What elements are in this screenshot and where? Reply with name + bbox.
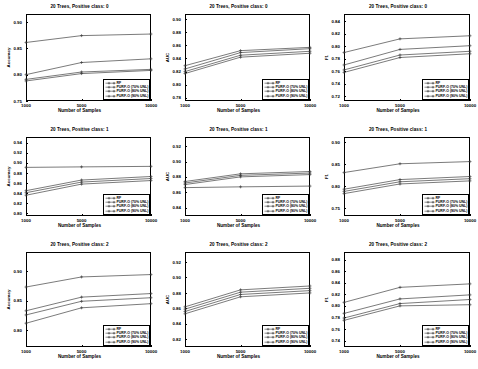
plot-panel: 20 Trees, Positive class: 1F10.750.800.8… bbox=[318, 123, 478, 238]
legend[interactable]: RFPURF-O (70% UNL)PURF-O (80% UNL)PURF-O… bbox=[422, 79, 469, 100]
series-marker bbox=[469, 179, 472, 182]
series-line bbox=[344, 54, 470, 73]
legend-line-marker-icon bbox=[105, 209, 116, 213]
series-marker bbox=[150, 273, 153, 276]
legend[interactable]: RFPURF-O (70% UNL)PURF-O (80% UNL)PURF-O… bbox=[422, 194, 469, 215]
series-marker bbox=[469, 298, 472, 301]
series-line bbox=[344, 179, 470, 192]
series-layer bbox=[159, 123, 318, 238]
series-line bbox=[26, 304, 151, 324]
series-marker bbox=[184, 67, 187, 70]
legend-item[interactable]: PURF-O (90% UNL) bbox=[264, 340, 306, 344]
series-marker bbox=[150, 33, 153, 36]
legend-label: PURF-O (90% UNL) bbox=[276, 94, 308, 98]
series-line bbox=[185, 186, 310, 188]
series-marker bbox=[184, 183, 187, 186]
series-marker bbox=[25, 73, 28, 76]
series-marker bbox=[469, 160, 472, 163]
series-marker bbox=[469, 44, 472, 47]
series-marker bbox=[309, 291, 312, 294]
series-marker bbox=[343, 51, 346, 54]
series-marker bbox=[25, 309, 28, 312]
legend-label: PURF-O (90% UNL) bbox=[117, 94, 149, 98]
series-marker bbox=[150, 57, 153, 60]
series-line bbox=[344, 46, 470, 65]
legend-line-marker-icon bbox=[264, 209, 275, 213]
plot-panel: 20 Trees, Positive class: 0F10.720.740.7… bbox=[318, 0, 478, 123]
series-marker bbox=[80, 275, 83, 278]
series-marker bbox=[469, 293, 472, 296]
series-line bbox=[344, 305, 470, 321]
series-marker bbox=[150, 292, 153, 295]
figure-grid: 20 Trees, Positive class: 0Accuracy0.750… bbox=[0, 0, 478, 369]
series-marker bbox=[399, 297, 402, 300]
series-marker bbox=[399, 56, 402, 59]
series-line bbox=[26, 275, 151, 287]
legend-item[interactable]: PURF-O (90% UNL) bbox=[105, 94, 147, 98]
legend-item[interactable]: PURF-O (90% UNL) bbox=[424, 340, 466, 344]
series-marker bbox=[399, 48, 402, 51]
legend-item[interactable]: PURF-O (90% UNL) bbox=[264, 209, 306, 213]
series-marker bbox=[343, 71, 346, 74]
series-marker bbox=[469, 52, 472, 55]
series-marker bbox=[239, 51, 242, 54]
legend[interactable]: RFPURF-O (70% UNL)PURF-O (80% UNL)PURF-O… bbox=[262, 325, 309, 346]
series-line bbox=[26, 294, 151, 311]
legend[interactable]: RFPURF-O (70% UNL)PURF-O (80% UNL)PURF-O… bbox=[262, 79, 309, 100]
series-marker bbox=[80, 165, 83, 168]
series-line bbox=[344, 284, 470, 303]
legend-item[interactable]: PURF-O (90% UNL) bbox=[105, 340, 147, 344]
series-marker bbox=[25, 194, 28, 197]
legend[interactable]: RFPURF-O (70% UNL)PURF-O (80% UNL)PURF-O… bbox=[103, 194, 150, 215]
series-marker bbox=[184, 186, 187, 189]
series-marker bbox=[399, 37, 402, 40]
series-line bbox=[26, 166, 151, 167]
legend-line-marker-icon bbox=[105, 94, 116, 98]
legend-item[interactable]: PURF-O (90% UNL) bbox=[424, 94, 466, 98]
series-marker bbox=[25, 313, 28, 316]
series-marker bbox=[399, 286, 402, 289]
legend-label: PURF-O (90% UNL) bbox=[276, 209, 308, 213]
series-marker bbox=[25, 79, 28, 82]
plot-panel: 20 Trees, Positive class: 1Accuracy0.800… bbox=[0, 123, 159, 238]
plot-panel: 20 Trees, Positive class: 0AUC0.780.800.… bbox=[159, 0, 318, 123]
series-marker bbox=[469, 303, 472, 306]
series-layer bbox=[0, 0, 159, 123]
legend-item[interactable]: PURF-O (90% UNL) bbox=[105, 209, 147, 213]
series-line bbox=[26, 179, 151, 193]
series-layer bbox=[0, 238, 159, 369]
series-layer bbox=[318, 238, 478, 369]
legend[interactable]: RFPURF-O (70% UNL)PURF-O (80% UNL)PURF-O… bbox=[103, 325, 150, 346]
series-marker bbox=[239, 175, 242, 178]
legend[interactable]: RFPURF-O (70% UNL)PURF-O (80% UNL)PURF-O… bbox=[262, 194, 309, 215]
series-layer bbox=[159, 0, 318, 123]
series-marker bbox=[80, 34, 83, 37]
series-line bbox=[185, 175, 310, 185]
series-marker bbox=[399, 182, 402, 185]
plot-panel: 20 Trees, Positive class: 2AUC0.820.840.… bbox=[159, 238, 318, 369]
series-marker bbox=[399, 162, 402, 165]
series-marker bbox=[25, 166, 28, 169]
series-marker bbox=[343, 63, 346, 66]
series-line bbox=[26, 59, 151, 75]
legend-item[interactable]: PURF-O (90% UNL) bbox=[264, 94, 306, 98]
legend[interactable]: RFPURF-O (70% UNL)PURF-O (80% UNL)PURF-O… bbox=[422, 325, 469, 346]
plot-panel: 20 Trees, Positive class: 1AUC0.840.860.… bbox=[159, 123, 318, 238]
series-marker bbox=[184, 72, 187, 75]
series-marker bbox=[25, 286, 28, 289]
legend-item[interactable]: PURF-O (90% UNL) bbox=[424, 209, 466, 213]
series-line bbox=[185, 173, 310, 183]
series-line bbox=[344, 177, 470, 190]
series-marker bbox=[239, 185, 242, 188]
legend-label: PURF-O (90% UNL) bbox=[117, 340, 149, 344]
series-layer bbox=[318, 0, 478, 123]
legend-label: PURF-O (90% UNL) bbox=[117, 209, 149, 213]
legend-label: PURF-O (90% UNL) bbox=[276, 340, 308, 344]
series-marker bbox=[150, 296, 153, 299]
series-marker bbox=[309, 173, 312, 176]
series-marker bbox=[80, 300, 83, 303]
series-marker bbox=[150, 165, 153, 168]
series-marker bbox=[399, 304, 402, 307]
legend[interactable]: RFPURF-O (70% UNL)PURF-O (80% UNL)PURF-O… bbox=[103, 79, 150, 100]
series-line bbox=[344, 162, 470, 173]
